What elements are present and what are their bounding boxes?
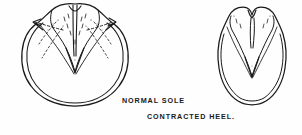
normal-sole-caption: NORMAL SOLE — [122, 97, 185, 104]
normal-sole-outer-wall — [22, 4, 128, 106]
normal-sole-right-bar — [76, 25, 110, 74]
contracted-heel-inner-wall — [221, 34, 283, 101]
normal-sole-frog-cleft-right — [76, 5, 77, 56]
figure-canvas: NORMAL SOLE CONTRACTED HEEL. — [0, 0, 302, 135]
contracted-heel-caption: CONTRACTED HEEL. — [147, 113, 235, 120]
contracted-heel-frog-cleft-right — [253, 18, 254, 48]
contracted-heel-right-groove — [253, 27, 277, 77]
normal-sole-inner-wall — [27, 23, 123, 103]
normal-sole-frog-hatching — [64, 14, 86, 44]
contracted-heel-outer-wall — [218, 7, 286, 105]
normal-sole-frog-cleft-left — [73, 5, 74, 56]
normal-sole-diagram — [22, 4, 128, 106]
contracted-heel-hatching — [236, 19, 268, 28]
contracted-heel-stipple — [234, 16, 271, 67]
normal-sole-heel-notch — [69, 6, 81, 11]
contracted-heel-frog-cleft-left — [250, 18, 251, 48]
normal-sole-left-bar — [40, 25, 74, 74]
contracted-heel-diagram — [218, 7, 286, 105]
contracted-heel-left-groove — [227, 27, 251, 77]
